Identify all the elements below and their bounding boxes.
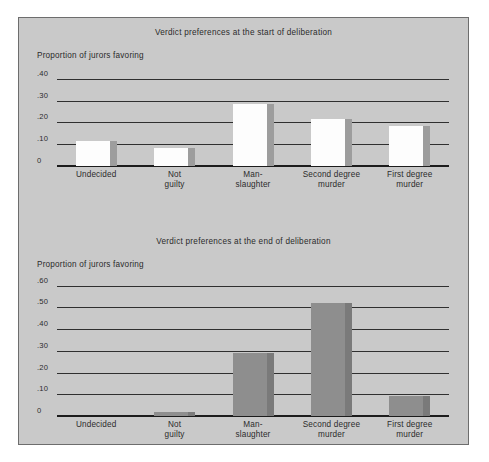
x-tick-label: First degree murder — [371, 420, 449, 439]
bar-shadow — [188, 148, 195, 167]
y-tick-label: .10 — [37, 134, 48, 143]
bar — [233, 353, 274, 416]
chart-title-bottom: Verdict preferences at the end of delibe… — [19, 237, 468, 246]
bar-shadow — [423, 126, 430, 166]
bar-shadow — [110, 141, 117, 166]
gridline — [57, 79, 449, 80]
bar-face — [311, 303, 345, 416]
x-tick-label: First degree murder — [371, 170, 449, 189]
chart-end-of-deliberation: Verdict preferences at the end of delibe… — [19, 218, 468, 444]
y-axis-label-top: Proportion of jurors favoring — [37, 51, 144, 60]
y-tick-label: .20 — [37, 363, 48, 372]
chart-title-top: Verdict preferences at the start of deli… — [19, 28, 468, 37]
bar-shadow — [188, 412, 195, 416]
bar — [233, 104, 274, 166]
bar-shadow — [423, 396, 430, 416]
gridline — [57, 307, 449, 308]
bar — [311, 303, 352, 416]
gridline — [57, 101, 449, 102]
gridline — [57, 286, 449, 287]
x-tick-label: Undecided — [57, 170, 135, 180]
bar-face — [233, 104, 267, 166]
x-tick-label: Second degree murder — [292, 420, 370, 439]
bar-face — [389, 126, 423, 166]
plot-area-bottom: 0.10.20.30.40.50.60 — [57, 277, 449, 416]
y-tick-label: .10 — [37, 384, 48, 393]
bar-face — [389, 396, 423, 416]
bar-face — [154, 148, 188, 167]
y-tick-label: .40 — [37, 69, 48, 78]
chart-start-of-deliberation: Verdict preferences at the start of deli… — [19, 18, 468, 223]
bar-shadow — [267, 104, 274, 166]
bar-shadow — [267, 353, 274, 416]
y-tick-label: .60 — [37, 276, 48, 285]
bar — [311, 119, 352, 166]
bar-face — [233, 353, 267, 416]
figure-panel: Verdict preferences at the start of deli… — [18, 17, 469, 445]
bar-shadow — [345, 119, 352, 166]
bar — [389, 126, 430, 166]
y-tick-label: 0 — [37, 156, 41, 165]
y-tick-label: 0 — [37, 406, 41, 415]
x-tick-label: Not guilty — [135, 170, 213, 189]
x-tick-label: Second degree murder — [292, 170, 370, 189]
x-tick-label: Man- slaughter — [214, 420, 292, 439]
y-axis-label-bottom: Proportion of jurors favoring — [37, 260, 144, 269]
bar-shadow — [345, 303, 352, 416]
bar — [154, 412, 195, 416]
bar-face — [311, 119, 345, 166]
x-tick-label: Undecided — [57, 420, 135, 430]
bar — [389, 396, 430, 416]
gridline — [57, 351, 449, 352]
y-tick-label: .40 — [37, 319, 48, 328]
y-tick-label: .30 — [37, 91, 48, 100]
x-tick-label: Man- slaughter — [214, 170, 292, 189]
y-tick-label: .30 — [37, 341, 48, 350]
x-tick-label: Not guilty — [135, 420, 213, 439]
bar-face — [76, 141, 110, 166]
y-tick-label: .20 — [37, 112, 48, 121]
figure-root: Verdict preferences at the start of deli… — [0, 0, 489, 462]
bar — [76, 141, 117, 166]
bar — [154, 148, 195, 167]
bar-face — [154, 412, 188, 416]
gridline — [57, 329, 449, 330]
y-tick-label: .50 — [37, 297, 48, 306]
plot-area-top: 0.10.20.30.40 — [57, 68, 449, 166]
